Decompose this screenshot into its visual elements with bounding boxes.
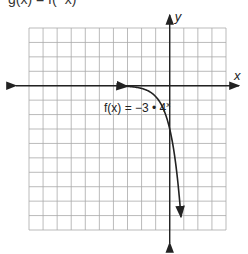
- function-label-main: f(x) = −3 • 4: [104, 101, 167, 115]
- y-axis-label: y: [174, 9, 183, 24]
- x-axis-label: x: [233, 68, 241, 83]
- chart: x y f(x) = −3 • 4x: [0, 0, 248, 254]
- grid: [29, 28, 226, 230]
- function-label: f(x) = −3 • 4x: [104, 100, 170, 115]
- function-label-exponent: x: [166, 100, 170, 109]
